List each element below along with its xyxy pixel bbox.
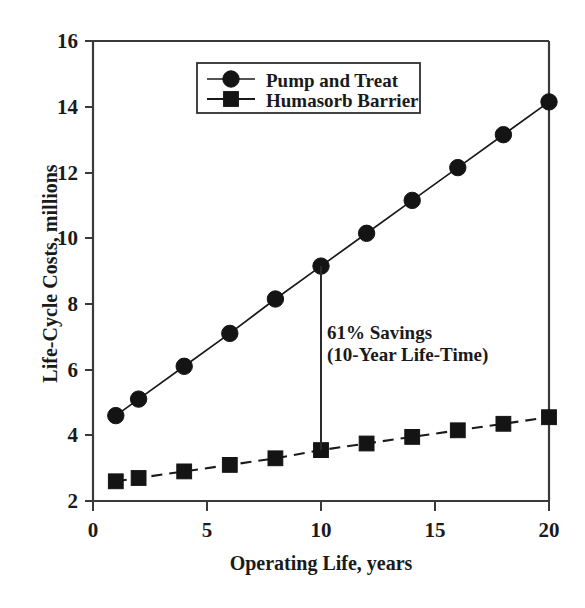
data-point xyxy=(131,471,146,486)
data-point xyxy=(359,436,374,451)
data-point xyxy=(268,451,283,466)
data-point xyxy=(495,127,511,143)
y-tick-label-16: 16 xyxy=(40,31,78,52)
data-point xyxy=(176,358,192,374)
data-point xyxy=(404,192,420,208)
x-tick-label-15: 15 xyxy=(415,520,455,541)
data-point xyxy=(222,458,237,473)
data-point xyxy=(108,474,123,489)
data-point xyxy=(130,391,146,407)
x-axis-title: Operating Life, years xyxy=(93,552,549,575)
series-pump-and-treat xyxy=(108,94,558,424)
savings-annotation-line2: (10-Year Life-Time) xyxy=(327,344,488,366)
x-tick-marks xyxy=(93,501,549,511)
data-point xyxy=(542,410,557,425)
y-tick-label-2: 2 xyxy=(40,491,78,512)
x-tick-label-5: 5 xyxy=(187,520,227,541)
data-point xyxy=(358,225,374,241)
legend-label-pump-and-treat: Pump and Treat xyxy=(266,71,398,90)
x-tick-label-10: 10 xyxy=(301,520,341,541)
y-axis-title: Life-Cycle Costs, millions xyxy=(39,109,62,439)
data-point xyxy=(541,94,557,110)
savings-annotation-line1: 61% Savings xyxy=(327,322,488,344)
savings-annotation: 61% Savings (10-Year Life-Time) xyxy=(327,322,488,367)
y-tick-marks xyxy=(85,41,93,501)
x-tick-label-20: 20 xyxy=(529,520,569,541)
data-point xyxy=(177,464,192,479)
legend-circle-marker-icon xyxy=(223,71,239,87)
chart-figure: 16 14 12 10 8 6 4 2 0 5 10 15 20 Life-Cy… xyxy=(0,0,585,608)
data-point xyxy=(222,325,238,341)
data-point xyxy=(450,423,465,438)
data-point xyxy=(108,407,124,423)
data-point xyxy=(405,430,420,445)
data-point xyxy=(496,416,511,431)
data-point xyxy=(267,291,283,307)
series-humasorb-barrier xyxy=(108,410,556,489)
x-tick-label-0: 0 xyxy=(73,520,113,541)
legend-label-humasorb-barrier: Humasorb Barrier xyxy=(266,91,419,110)
data-point xyxy=(450,159,466,175)
legend-square-marker-icon xyxy=(224,92,239,107)
